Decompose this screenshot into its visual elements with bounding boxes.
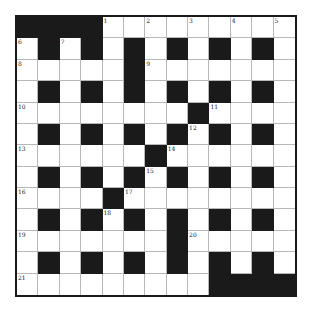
- crossword-cell[interactable]: [167, 274, 188, 295]
- crossword-cell[interactable]: [274, 103, 295, 124]
- crossword-cell[interactable]: [145, 274, 166, 295]
- crossword-cell[interactable]: [188, 209, 209, 230]
- crossword-cell[interactable]: [252, 145, 273, 166]
- crossword-cell[interactable]: [188, 252, 209, 273]
- crossword-cell[interactable]: [60, 209, 81, 230]
- crossword-cell[interactable]: [124, 274, 145, 295]
- crossword-cell[interactable]: [17, 252, 38, 273]
- crossword-cell[interactable]: [231, 81, 252, 102]
- crossword-cell[interactable]: [38, 145, 59, 166]
- crossword-cell[interactable]: [124, 145, 145, 166]
- crossword-cell[interactable]: [188, 145, 209, 166]
- crossword-cell[interactable]: [60, 103, 81, 124]
- crossword-cell[interactable]: [209, 188, 230, 209]
- crossword-cell[interactable]: [274, 188, 295, 209]
- crossword-cell[interactable]: [252, 231, 273, 252]
- crossword-cell[interactable]: [60, 167, 81, 188]
- crossword-cell[interactable]: 21: [17, 274, 38, 295]
- crossword-cell[interactable]: [38, 60, 59, 81]
- crossword-cell[interactable]: 19: [17, 231, 38, 252]
- crossword-cell[interactable]: [103, 145, 124, 166]
- crossword-cell[interactable]: 20: [188, 231, 209, 252]
- crossword-cell[interactable]: [60, 124, 81, 145]
- crossword-cell[interactable]: [274, 81, 295, 102]
- crossword-cell[interactable]: [209, 145, 230, 166]
- crossword-cell[interactable]: [231, 124, 252, 145]
- crossword-cell[interactable]: [188, 81, 209, 102]
- crossword-cell[interactable]: [103, 167, 124, 188]
- crossword-cell[interactable]: 8: [17, 60, 38, 81]
- crossword-cell[interactable]: [231, 38, 252, 59]
- crossword-cell[interactable]: [103, 81, 124, 102]
- crossword-cell[interactable]: [274, 167, 295, 188]
- crossword-cell[interactable]: [145, 209, 166, 230]
- crossword-cell[interactable]: [252, 17, 273, 38]
- crossword-cell[interactable]: [252, 103, 273, 124]
- crossword-cell[interactable]: [274, 145, 295, 166]
- crossword-cell[interactable]: [145, 38, 166, 59]
- crossword-cell[interactable]: [145, 81, 166, 102]
- crossword-cell[interactable]: [145, 188, 166, 209]
- crossword-cell[interactable]: [81, 60, 102, 81]
- crossword-cell[interactable]: [103, 38, 124, 59]
- crossword-cell[interactable]: 15: [145, 167, 166, 188]
- crossword-cell[interactable]: [124, 231, 145, 252]
- crossword-cell[interactable]: 6: [17, 38, 38, 59]
- crossword-cell[interactable]: 2: [145, 17, 166, 38]
- crossword-cell[interactable]: [209, 231, 230, 252]
- crossword-cell[interactable]: [252, 188, 273, 209]
- crossword-cell[interactable]: 10: [17, 103, 38, 124]
- crossword-cell[interactable]: 1: [103, 17, 124, 38]
- crossword-cell[interactable]: [103, 60, 124, 81]
- crossword-cell[interactable]: [274, 124, 295, 145]
- crossword-cell[interactable]: [188, 188, 209, 209]
- crossword-cell[interactable]: [81, 103, 102, 124]
- crossword-cell[interactable]: [231, 60, 252, 81]
- crossword-cell[interactable]: [103, 124, 124, 145]
- crossword-cell[interactable]: [274, 252, 295, 273]
- crossword-cell[interactable]: [274, 209, 295, 230]
- crossword-cell[interactable]: 18: [103, 209, 124, 230]
- crossword-cell[interactable]: [60, 188, 81, 209]
- crossword-cell[interactable]: [81, 274, 102, 295]
- crossword-cell[interactable]: 5: [274, 17, 295, 38]
- crossword-cell[interactable]: 14: [167, 145, 188, 166]
- crossword-cell[interactable]: [60, 145, 81, 166]
- crossword-cell[interactable]: [103, 252, 124, 273]
- crossword-cell[interactable]: [124, 17, 145, 38]
- crossword-cell[interactable]: [124, 103, 145, 124]
- crossword-cell[interactable]: [38, 188, 59, 209]
- crossword-cell[interactable]: 9: [145, 60, 166, 81]
- crossword-cell[interactable]: [188, 60, 209, 81]
- crossword-cell[interactable]: [81, 231, 102, 252]
- crossword-cell[interactable]: [17, 124, 38, 145]
- crossword-cell[interactable]: [188, 274, 209, 295]
- crossword-cell[interactable]: [231, 209, 252, 230]
- crossword-cell[interactable]: [209, 17, 230, 38]
- crossword-cell[interactable]: [38, 274, 59, 295]
- crossword-cell[interactable]: [231, 188, 252, 209]
- crossword-cell[interactable]: [60, 252, 81, 273]
- crossword-cell[interactable]: [103, 103, 124, 124]
- crossword-cell[interactable]: [17, 209, 38, 230]
- crossword-cell[interactable]: 4: [231, 17, 252, 38]
- crossword-cell[interactable]: [145, 252, 166, 273]
- crossword-cell[interactable]: [38, 103, 59, 124]
- crossword-cell[interactable]: [167, 17, 188, 38]
- crossword-cell[interactable]: [60, 60, 81, 81]
- crossword-cell[interactable]: 12: [188, 124, 209, 145]
- crossword-cell[interactable]: [17, 167, 38, 188]
- crossword-cell[interactable]: [38, 231, 59, 252]
- crossword-cell[interactable]: [231, 103, 252, 124]
- crossword-cell[interactable]: [231, 252, 252, 273]
- crossword-cell[interactable]: [81, 145, 102, 166]
- crossword-cell[interactable]: [231, 145, 252, 166]
- crossword-cell[interactable]: [17, 81, 38, 102]
- crossword-cell[interactable]: [274, 231, 295, 252]
- crossword-cell[interactable]: 16: [17, 188, 38, 209]
- crossword-cell[interactable]: 11: [209, 103, 230, 124]
- crossword-cell[interactable]: 7: [60, 38, 81, 59]
- crossword-cell[interactable]: [103, 231, 124, 252]
- crossword-cell[interactable]: [209, 60, 230, 81]
- crossword-cell[interactable]: [167, 60, 188, 81]
